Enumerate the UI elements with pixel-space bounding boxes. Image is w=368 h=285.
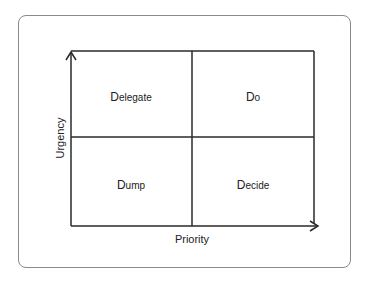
quadrant-dump: Dump <box>117 178 145 192</box>
quadrant-delegate: Delegate <box>110 90 151 104</box>
quadrant-decide: Decide <box>237 178 270 192</box>
x-axis-label: Priority <box>175 233 209 245</box>
quadrant-do: Do <box>246 90 260 104</box>
y-axis-label: Urgency <box>54 118 66 159</box>
